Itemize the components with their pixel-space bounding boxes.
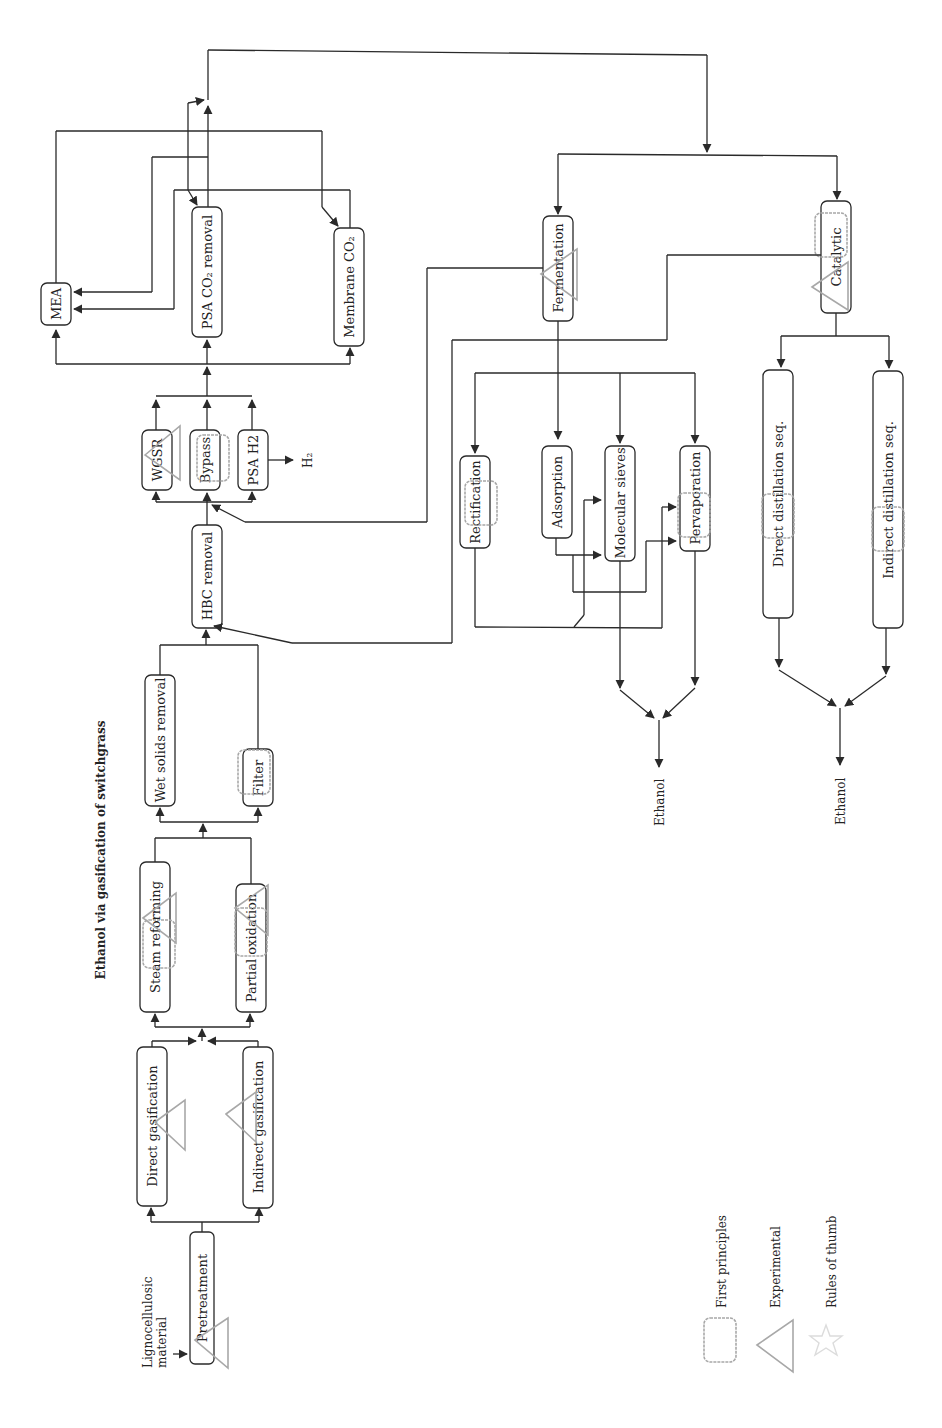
svg-text:Adsorption: Adsorption — [550, 455, 565, 529]
svg-text:PSA CO₂ removal: PSA CO₂ removal — [200, 215, 215, 329]
node-pretreatment[interactable]: Pretreatment — [190, 1232, 214, 1364]
node-adsorption[interactable]: Adsorption — [542, 446, 572, 538]
output-ethanol-2: Ethanol — [834, 778, 848, 825]
input-label-line2: material — [155, 1317, 169, 1368]
node-membrane-co2[interactable]: Membrane CO₂ — [334, 228, 364, 346]
node-hbc-removal[interactable]: HBC removal — [192, 525, 222, 628]
legend-rules-of-thumb: Rules of thumb — [825, 1215, 839, 1308]
input-label-line1: Lignocellulosic — [141, 1276, 155, 1368]
svg-text:Indirect gasification: Indirect gasification — [251, 1060, 266, 1193]
node-psa-h2[interactable]: PSA H2 — [238, 430, 268, 490]
node-fermentation[interactable]: Fermentation — [543, 216, 573, 321]
node-molecular-sieves[interactable]: Molecular sieves — [605, 446, 635, 561]
svg-text:Partial oxidation: Partial oxidation — [244, 893, 259, 1002]
output-h2: H₂ — [301, 453, 315, 468]
node-indirect-distillation[interactable]: Indirect distillation seq. — [873, 371, 903, 628]
svg-text:Steam reforming: Steam reforming — [148, 881, 163, 993]
node-indirect-gasification[interactable]: Indirect gasification — [243, 1047, 273, 1208]
node-mea[interactable]: MEA — [41, 283, 71, 325]
legend-experimental: Experimental — [769, 1226, 783, 1308]
output-ethanol-1: Ethanol — [653, 779, 667, 826]
rules-of-thumb-legend-icon — [810, 1325, 842, 1355]
svg-text:Molecular sieves: Molecular sieves — [613, 447, 628, 558]
svg-text:MEA: MEA — [49, 287, 64, 320]
svg-text:Pretreatment: Pretreatment — [195, 1253, 210, 1342]
diagram-title: Ethanol via gasification of switchgrass — [94, 720, 108, 979]
svg-text:Wet solids removal: Wet solids removal — [153, 678, 168, 803]
svg-text:Direct gasification: Direct gasification — [145, 1065, 160, 1187]
svg-text:Filter: Filter — [251, 759, 266, 796]
node-wet-solids-removal[interactable]: Wet solids removal — [145, 675, 175, 806]
node-steam-reforming[interactable]: Steam reforming — [140, 862, 170, 1012]
svg-text:PSA H2: PSA H2 — [246, 435, 261, 486]
svg-text:Bypass: Bypass — [198, 437, 213, 483]
process-flow-diagram: Ethanol via gasification of switchgrass … — [0, 0, 942, 1428]
svg-text:Pervaporation: Pervaporation — [688, 451, 703, 544]
node-wgsr[interactable]: WGSR — [142, 430, 172, 490]
svg-text:Rectification: Rectification — [468, 460, 483, 544]
svg-text:Indirect distillation seq.: Indirect distillation seq. — [881, 421, 896, 579]
svg-text:HBC removal: HBC removal — [200, 532, 215, 621]
svg-text:Fermentation: Fermentation — [551, 223, 566, 313]
node-pervaporation[interactable]: Pervaporation — [680, 446, 710, 551]
legend: First principles Experimental Rules of t… — [704, 1215, 842, 1372]
legend-first-principles: First principles — [715, 1215, 729, 1308]
node-psa-co2-removal[interactable]: PSA CO₂ removal — [192, 207, 222, 337]
first-principles-legend-icon — [704, 1318, 736, 1362]
svg-text:Membrane CO₂: Membrane CO₂ — [342, 236, 357, 338]
experimental-legend-icon — [757, 1320, 793, 1372]
node-filter[interactable]: Filter — [243, 749, 273, 806]
node-direct-gasification[interactable]: Direct gasification — [137, 1047, 167, 1206]
